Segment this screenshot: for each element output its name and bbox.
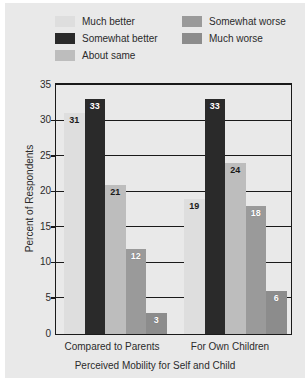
- bar: 24: [225, 163, 246, 334]
- bar-value-label: 33: [85, 101, 106, 111]
- legend-item-about-same: About same: [55, 47, 158, 64]
- legend-label-somewhat-worse: Somewhat worse: [209, 16, 286, 27]
- bar-value-label: 12: [126, 251, 147, 261]
- bar-value-label: 33: [205, 101, 226, 111]
- legend-item-somewhat-worse: Somewhat worse: [182, 13, 286, 30]
- bar-value-label: 24: [225, 165, 246, 175]
- legend-swatch-much-better: [55, 16, 75, 27]
- bar-value-label: 31: [64, 115, 85, 125]
- legend-swatch-about-same: [55, 50, 75, 61]
- bar: 21: [105, 185, 126, 334]
- x-group-label-for-own-children: For Own Children: [175, 341, 285, 352]
- bar: 18: [246, 206, 267, 334]
- legend-swatch-somewhat-better: [55, 33, 75, 44]
- plot-inner: 313321123193324186: [56, 84, 291, 334]
- legend-column-right: Somewhat worse Much worse: [182, 13, 286, 47]
- bar-value-label: 6: [266, 293, 287, 303]
- y-axis-title: Percent of Respondents: [24, 89, 35, 309]
- legend-item-somewhat-better: Somewhat better: [55, 30, 158, 47]
- bar: 19: [184, 199, 205, 334]
- plot-area: 313321123193324186: [55, 83, 292, 335]
- bar-value-label: 21: [105, 187, 126, 197]
- x-axis-title: Perceived Mobility for Self and Child: [5, 360, 305, 371]
- legend-swatch-somewhat-worse: [182, 16, 202, 27]
- bar-value-label: 3: [146, 315, 167, 325]
- chart-figure: Much better Somewhat better About same S…: [5, 3, 305, 378]
- bar-value-label: 18: [246, 208, 267, 218]
- bar: 3: [146, 313, 167, 334]
- legend-column-left: Much better Somewhat better About same: [55, 13, 158, 64]
- legend-item-much-worse: Much worse: [182, 30, 286, 47]
- legend-swatch-much-worse: [182, 33, 202, 44]
- bar-value-label: 19: [184, 201, 205, 211]
- bar: 12: [126, 249, 147, 334]
- bar: 33: [85, 99, 106, 334]
- gridline: [56, 84, 291, 85]
- bar: 31: [64, 113, 85, 334]
- legend-label-somewhat-better: Somewhat better: [82, 33, 158, 44]
- legend-label-much-worse: Much worse: [209, 33, 263, 44]
- legend-item-much-better: Much better: [55, 13, 158, 30]
- x-group-label-compared-to-parents: Compared to Parents: [55, 341, 169, 352]
- bar: 33: [205, 99, 226, 334]
- chart-legend: Much better Somewhat better About same S…: [5, 13, 305, 68]
- legend-label-much-better: Much better: [82, 16, 135, 27]
- legend-label-about-same: About same: [82, 50, 135, 61]
- bar: 6: [266, 291, 287, 334]
